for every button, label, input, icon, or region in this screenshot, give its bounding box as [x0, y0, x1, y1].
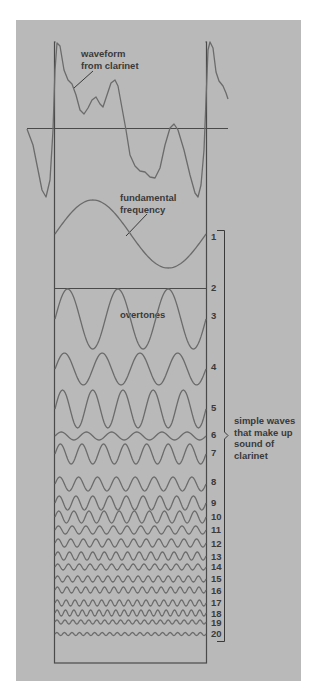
fundamental-label-line1: fundamental [120, 192, 176, 203]
harmonic-number-2: 2 [211, 282, 216, 293]
waveform-label-line2: from clarinet [81, 60, 139, 71]
bracket-label-line1: simple waves [234, 415, 295, 426]
harmonic-number-20: 20 [211, 628, 222, 639]
fundamental-label-line2: frequency [120, 204, 166, 215]
bracket-label-line3: sound of [234, 438, 275, 449]
harmonic-number-14: 14 [211, 561, 222, 572]
harmonic-number-12: 12 [211, 538, 222, 549]
diagram-stage: waveform from clarinet fundamental frequ… [0, 0, 316, 693]
harmonic-number-7: 7 [211, 447, 216, 458]
harmonic-number-10: 10 [211, 511, 222, 522]
harmonic-number-19: 19 [211, 617, 222, 628]
clarinet-harmonics-diagram: waveform from clarinet fundamental frequ… [0, 0, 316, 693]
bracket-label-line4: clarinet [234, 450, 269, 461]
harmonic-number-17: 17 [211, 597, 222, 608]
bracket-label-line2: that make up [234, 427, 293, 438]
harmonic-number-6: 6 [211, 429, 216, 440]
harmonic-number-3: 3 [211, 310, 216, 321]
harmonic-number-11: 11 [211, 524, 222, 535]
harmonic-number-16: 16 [211, 585, 222, 596]
harmonic-number-9: 9 [211, 497, 216, 508]
gray-panel [16, 20, 301, 681]
harmonic-number-4: 4 [211, 361, 217, 372]
harmonic-number-1: 1 [211, 231, 217, 242]
harmonic-number-15: 15 [211, 573, 222, 584]
harmonic-number-5: 5 [211, 402, 217, 413]
harmonic-number-8: 8 [211, 476, 216, 487]
waveform-label-line1: waveform [80, 48, 125, 59]
